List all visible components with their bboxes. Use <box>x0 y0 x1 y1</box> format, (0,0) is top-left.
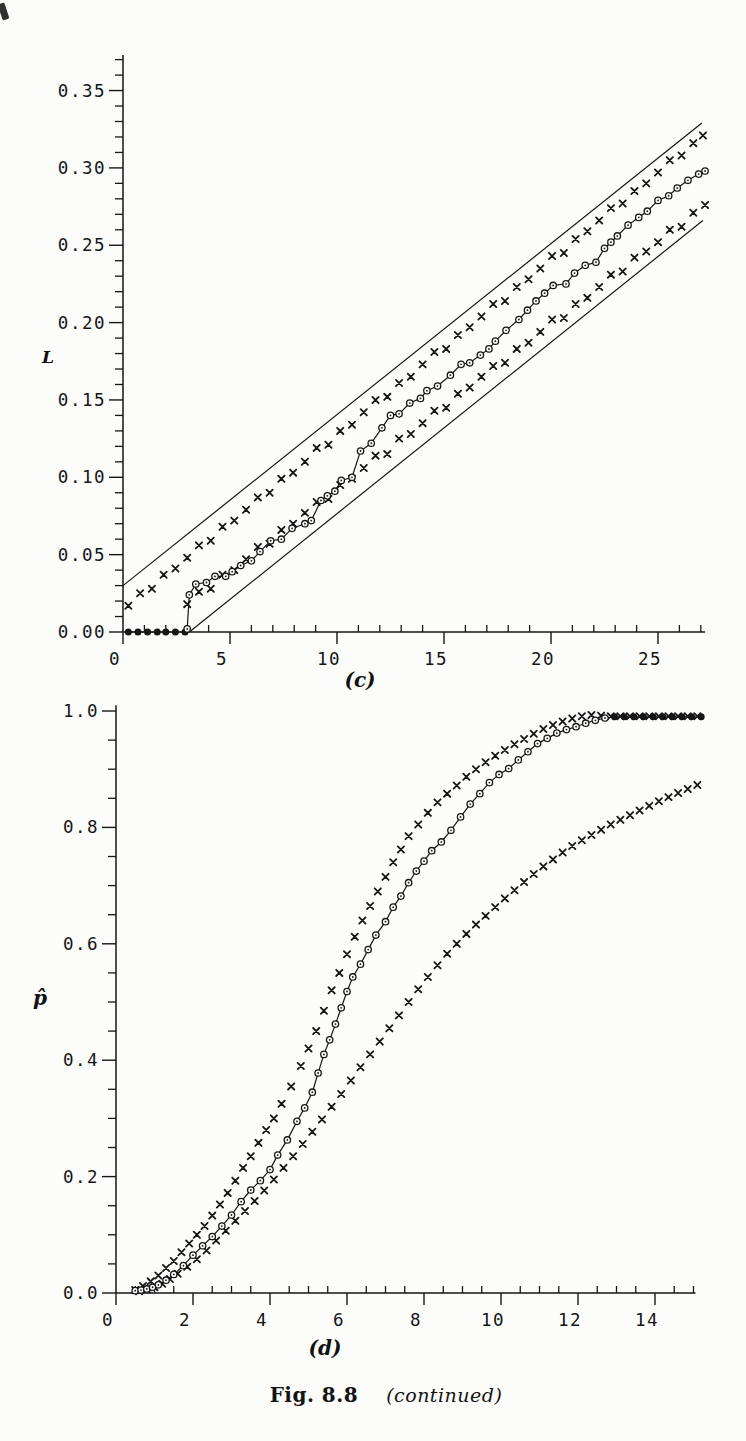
circle-center-dot <box>544 292 546 294</box>
empirical-curve-line <box>128 171 705 632</box>
circle-center-dot <box>527 751 529 753</box>
circle-center-dot <box>494 340 496 342</box>
circle-center-dot <box>310 520 312 522</box>
circle-center-dot <box>552 285 554 287</box>
filled-circle-marker <box>144 629 151 636</box>
circle-center-dot <box>585 722 587 724</box>
circle-center-dot <box>311 1091 313 1093</box>
circle-center-dot <box>668 195 670 197</box>
circle-center-dot <box>616 235 618 237</box>
x-markers <box>184 202 708 607</box>
circle-center-dot <box>211 1236 213 1238</box>
circle-center-dot <box>206 582 208 584</box>
circle-center-dot <box>195 583 197 585</box>
circle-center-dot <box>385 921 387 923</box>
circle-center-dot <box>408 882 410 884</box>
y-tick-label: 0.6 <box>63 934 99 954</box>
circle-center-dot <box>346 991 348 993</box>
circle-center-dot <box>469 803 471 805</box>
circle-center-dot <box>527 309 529 311</box>
circle-center-dot <box>240 1201 242 1203</box>
circle-center-dot <box>450 829 452 831</box>
circle-center-dot <box>489 782 491 784</box>
filled-circle-marker <box>630 713 637 720</box>
circle-center-dot <box>304 523 306 525</box>
series-lower-x-band <box>136 782 700 1295</box>
x-tick-label: 5 <box>216 649 228 669</box>
circle-center-dot <box>646 210 648 212</box>
circle-center-dot <box>479 354 481 356</box>
circle-center-dot <box>409 402 411 404</box>
circle-center-dot <box>565 283 567 285</box>
series-upper-x-band <box>132 712 700 1293</box>
circle-center-dot <box>415 870 417 872</box>
x-markers <box>125 132 706 608</box>
x-tick-label: 0 <box>102 1310 114 1330</box>
circle-center-dot <box>280 538 282 540</box>
x-tick-label: 4 <box>256 1310 268 1330</box>
circle-center-dot <box>574 272 576 274</box>
filled-circle-marker <box>125 629 132 636</box>
circle-center-dot <box>329 1039 331 1041</box>
filled-circle-marker <box>650 713 657 720</box>
figure-caption: Fig. 8.8(continued) <box>0 1383 746 1407</box>
circle-center-dot <box>610 241 612 243</box>
circle-center-dot <box>146 1288 148 1290</box>
circle-center-dot <box>638 217 640 219</box>
figure-canvas: 05101520250.000.050.100.150.200.250.300.… <box>0 0 746 1441</box>
y-tick-label: 0.15 <box>58 390 106 410</box>
circle-center-dot <box>479 793 481 795</box>
circle-center-dot <box>440 841 442 843</box>
caption-figure-number: Fig. 8.8 <box>270 1383 359 1407</box>
plot-c: 05101520250.000.050.100.150.200.250.300.… <box>58 55 708 669</box>
circle-center-dot <box>326 495 328 497</box>
y-tick-label: 0.8 <box>63 817 99 837</box>
filled-circle-marker <box>134 629 141 636</box>
circle-center-dot <box>140 1289 142 1291</box>
circle-center-dot <box>360 450 362 452</box>
x-tick-label: 10 <box>317 649 341 669</box>
upper-confidence-line-line <box>123 123 702 586</box>
circle-center-dot <box>182 1265 184 1267</box>
circle-center-dot <box>460 363 462 365</box>
circle-center-dot <box>286 1139 288 1141</box>
circle-center-dot <box>488 348 490 350</box>
circle-center-dot <box>604 247 606 249</box>
lower-confidence-line-line <box>189 221 703 633</box>
circle-center-dot <box>269 1169 271 1171</box>
x-markers <box>132 712 700 1293</box>
circle-center-dot <box>595 261 597 263</box>
circle-center-dot <box>360 963 362 965</box>
x-markers <box>136 782 700 1295</box>
circle-center-dot <box>508 768 510 770</box>
panel-label-d: (d) <box>290 1336 360 1360</box>
circle-center-dot <box>323 1053 325 1055</box>
circle-center-dot <box>556 732 558 734</box>
circle-center-dot <box>657 199 659 201</box>
circle-center-dot <box>575 726 577 728</box>
circle-center-dot <box>370 442 372 444</box>
circle-center-dot <box>604 717 606 719</box>
circle-center-dot <box>460 816 462 818</box>
series-lower-confidence-line <box>189 221 703 633</box>
circle-center-dot <box>250 1189 252 1191</box>
filled-circle-marker <box>162 629 169 636</box>
circle-center-dot <box>352 976 354 978</box>
circle-center-dot <box>584 264 586 266</box>
x-tick-label: 6 <box>333 1310 345 1330</box>
y-axis-label-d: p̂ <box>33 988 47 1008</box>
circle-center-dot <box>594 719 596 721</box>
circle-center-dot <box>704 170 706 172</box>
circle-center-dot <box>334 490 336 492</box>
circle-center-dot <box>505 329 507 331</box>
y-tick-label: 0.2 <box>63 1167 99 1187</box>
series-empirical-curve <box>125 168 708 636</box>
caption-continued: (continued) <box>386 1384 502 1406</box>
x-tick-label: 8 <box>410 1310 422 1330</box>
filled-circle-marker <box>611 713 618 720</box>
circle-center-dot <box>225 575 227 577</box>
circle-center-dot <box>351 476 353 478</box>
filled-circle-marker <box>659 713 666 720</box>
x-tick-label: 20 <box>531 649 555 669</box>
x-tick-label: 14 <box>635 1310 659 1330</box>
